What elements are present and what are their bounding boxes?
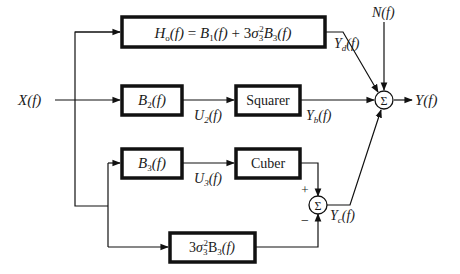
summer-main: Σ: [375, 91, 393, 109]
block-cuber-label: Cuber: [251, 156, 286, 171]
block-diagram: Ho(f) = B1(f) + 3σ32B3(f) B2(f) Squarer …: [0, 0, 460, 274]
svg-text:B2(f): B2(f): [138, 92, 166, 110]
block-cuber: Cuber: [236, 149, 300, 178]
block-squarer: Squarer: [236, 86, 300, 115]
block-b2: B2(f): [122, 86, 182, 115]
u3-label: U3(f): [194, 171, 222, 188]
u2-label: U2(f): [194, 108, 222, 125]
block-h0: Ho(f) = B1(f) + 3σ32B3(f): [122, 17, 325, 47]
block-squarer-label: Squarer: [246, 93, 290, 108]
block-h0-label: Ho(f) = B1(f) + 3σ32B3(f): [153, 24, 291, 43]
block-b3-scaled: 3σ32B3(f): [170, 233, 255, 262]
yd-label: Yd(f): [334, 36, 360, 53]
svg-text:Σ: Σ: [315, 199, 322, 213]
summer-inner: Σ + −: [301, 182, 327, 228]
input-label: X(f): [17, 92, 41, 109]
block-b3: B3(f): [122, 149, 182, 178]
signal-lines: [55, 22, 412, 247]
svg-text:Σ: Σ: [381, 94, 388, 108]
noise-label: N(f): [371, 5, 395, 21]
yb-label: Yb(f): [306, 108, 332, 125]
minus-sign: −: [301, 213, 309, 228]
svg-text:3σ32B3(f): 3σ32B3(f): [189, 238, 235, 257]
svg-text:B3(f): B3(f): [138, 155, 166, 173]
output-label: Y(f): [415, 92, 438, 109]
yc-label: Yc(f): [330, 208, 355, 225]
plus-sign: +: [301, 182, 308, 197]
